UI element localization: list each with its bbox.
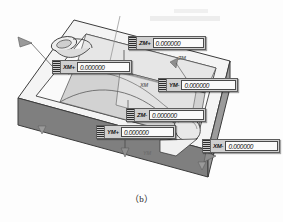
callout-xm-minus[interactable]: XM- 0.000000 xyxy=(202,139,280,153)
callout-value-xm-plus[interactable]: 0.000000 xyxy=(77,62,130,72)
callout-zm-plus[interactable]: ZM+ 0.000000 xyxy=(128,36,206,50)
drag-grip-icon[interactable] xyxy=(129,37,137,49)
callout-label-xm-minus: XM- xyxy=(211,140,225,152)
block-model-svg xyxy=(0,0,283,190)
drag-grip-icon[interactable] xyxy=(127,109,135,121)
callout-zm-minus[interactable]: ZM- 0.000000 xyxy=(126,108,206,122)
callout-ym-plus[interactable]: YM+ 0.000000 xyxy=(96,125,176,139)
drag-grip-icon[interactable] xyxy=(203,140,211,152)
callout-label-zm-plus: ZM+ xyxy=(137,37,153,49)
figure-caption: （b） xyxy=(0,192,283,205)
figure-container: ZM XM YM C ZM+ 0.000000 XM+ 0.000000 YM-… xyxy=(0,0,283,222)
callout-label-zm-minus: ZM- xyxy=(135,109,149,121)
axis-label-zm: ZM xyxy=(178,55,186,61)
drag-grip-icon[interactable] xyxy=(97,126,105,138)
axis-label-ym: YM xyxy=(143,150,151,156)
callout-ym-minus[interactable]: YM- 0.000000 xyxy=(158,78,238,92)
three-d-model-viewport[interactable]: ZM XM YM C ZM+ 0.000000 XM+ 0.000000 YM-… xyxy=(0,0,283,190)
drag-grip-icon[interactable] xyxy=(159,79,167,91)
callout-value-zm-plus[interactable]: 0.000000 xyxy=(153,38,204,48)
callout-label-ym-minus: YM- xyxy=(167,79,181,91)
callout-label-ym-plus: YM+ xyxy=(105,126,121,138)
callout-value-zm-minus[interactable]: 0.000000 xyxy=(149,110,204,120)
scan-artifact xyxy=(150,9,220,21)
callout-value-ym-minus[interactable]: 0.000000 xyxy=(181,80,236,90)
callout-value-xm-minus[interactable]: 0.000000 xyxy=(225,141,278,151)
callout-label-xm-plus: XM+ xyxy=(61,61,77,73)
callout-xm-plus[interactable]: XM+ 0.000000 xyxy=(52,60,132,74)
callout-value-ym-plus[interactable]: 0.000000 xyxy=(121,127,174,137)
axis-label-xm: XM xyxy=(140,82,148,88)
drag-grip-icon[interactable] xyxy=(53,61,61,73)
